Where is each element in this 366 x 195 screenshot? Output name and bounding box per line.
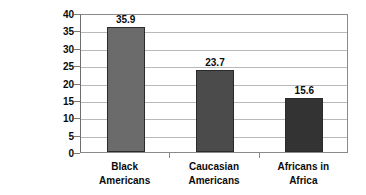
x-axis-category-ticks xyxy=(80,153,348,158)
y-axis-tick-label: 10 xyxy=(50,113,74,124)
x-axis-category-label: BlackAmericans xyxy=(80,160,169,188)
bar[interactable] xyxy=(285,98,323,152)
x-axis-category-label-line: Americans xyxy=(169,174,258,188)
y-axis-tick-label: 20 xyxy=(50,78,74,89)
x-axis-category-label-line: Americans xyxy=(80,174,169,188)
plot-area: 35.923.715.6 xyxy=(80,14,348,153)
bar-chart-figure: Percent of population with hypertension … xyxy=(0,0,366,195)
bar-value-label: 15.6 xyxy=(295,85,314,96)
bar-value-label: 23.7 xyxy=(205,57,224,68)
x-axis-category-label-line: Africans in xyxy=(259,160,348,174)
y-axis-tick-label: 5 xyxy=(50,130,74,141)
y-axis-tick-label: 35 xyxy=(50,26,74,37)
x-axis-category-label: CaucasianAmericans xyxy=(169,160,258,188)
bar-group: 23.7 xyxy=(170,15,259,152)
y-axis-tick-label: 15 xyxy=(50,95,74,106)
x-axis-category-label-line: Caucasian xyxy=(169,160,258,174)
bar-group: 35.9 xyxy=(81,15,170,152)
x-axis-category-label: Africans inAfrica xyxy=(259,160,348,188)
bar-value-label: 35.9 xyxy=(116,14,135,25)
y-axis-tick-labels: 0510152025303540 xyxy=(50,14,74,153)
x-axis-category-label-line: Black xyxy=(80,160,169,174)
bar-group: 15.6 xyxy=(260,15,349,152)
y-axis-tick-label: 30 xyxy=(50,43,74,54)
x-axis-category-label-line: Africa xyxy=(259,174,348,188)
y-axis-tick-label: 25 xyxy=(50,61,74,72)
x-axis-category-tick xyxy=(259,153,260,158)
y-axis-tick-label: 0 xyxy=(50,148,74,159)
x-axis-category-labels: BlackAmericansCaucasianAmericansAfricans… xyxy=(80,160,348,194)
bars-layer: 35.923.715.6 xyxy=(81,15,347,152)
x-axis-category-tick xyxy=(169,153,170,158)
bar[interactable] xyxy=(196,70,234,152)
y-axis-tick-label: 40 xyxy=(50,9,74,20)
bar[interactable] xyxy=(107,27,145,152)
